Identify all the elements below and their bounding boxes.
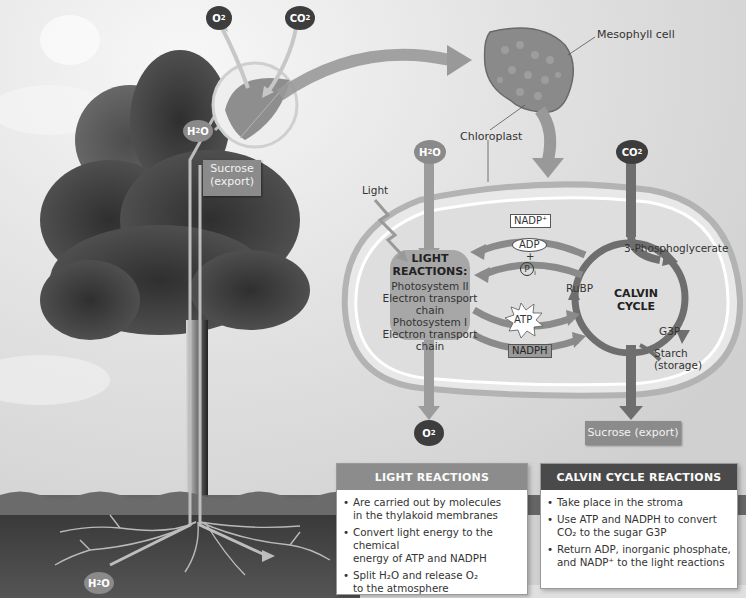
bullet: Convert light energy to the chemicalener… <box>353 526 527 565</box>
starch-line2: (storage) <box>654 359 702 371</box>
starch-storage-label: Starch (storage) <box>654 347 702 371</box>
light-label: Light <box>362 184 388 196</box>
light-reactions-components: Photosystem II Electron transport chain … <box>370 280 490 352</box>
co2-text: CO <box>622 147 638 158</box>
h2o-suffix: O <box>432 147 441 158</box>
h2o-suffix: O <box>101 578 110 589</box>
bullet-line: CO₂ to the sugar G3P <box>557 526 737 539</box>
phosphate-circle-icon: P <box>520 262 534 276</box>
bullet-line: Split H₂O and release O₂ <box>353 569 527 582</box>
bullet-line: in the thylakoid membranes <box>353 509 527 522</box>
chloroplast-label: Chloroplast <box>460 131 522 144</box>
component-etc-1: Electron transport chain <box>370 292 490 316</box>
h2o-text: H <box>187 126 195 137</box>
bullet-line: Take place in the stroma <box>557 496 737 509</box>
leaf-h2o-bubble: H2O <box>183 120 213 142</box>
co2-subscript: 2 <box>637 148 642 156</box>
bullet: Split H₂O and release O₂to the atmospher… <box>353 569 527 595</box>
chloroplast-sucrose-export-box: Sucrose (export) <box>585 421 681 445</box>
calvin-cycle-bullets: Take place in the stroma Use ATP and NAD… <box>541 496 737 569</box>
component-photosystem-i: Photosystem I <box>370 316 490 328</box>
g3p-label: G3P <box>659 325 680 337</box>
chloroplast-co2-bubble: CO2 <box>616 140 648 164</box>
bullet: Are carried out by moleculesin the thyla… <box>353 496 527 522</box>
adp-tag: ADP <box>512 238 547 252</box>
sucrose-line2: (export) <box>203 175 261 188</box>
nadph-tag: NADPH <box>508 344 552 358</box>
sucrose-line1: Sucrose <box>203 162 261 175</box>
component-photosystem-ii: Photosystem II <box>370 280 490 292</box>
phosphate-subscript: i <box>534 269 536 277</box>
bullet-line: Are carried out by molecules <box>353 496 527 509</box>
light-title-line1: LIGHT <box>392 252 468 265</box>
h2o-suffix: O <box>200 126 209 137</box>
bullet-line: Use ATP and NADPH to convert <box>557 513 737 526</box>
calvin-title-line2: CYCLE <box>606 300 666 313</box>
o2-subscript: 2 <box>221 14 226 22</box>
o2-subscript: 2 <box>431 429 436 437</box>
bullet-line: Return ADP, inorganic phosphate, <box>557 543 737 556</box>
chloroplast-h2o-bubble: H2O <box>414 140 446 164</box>
o2-text: O <box>422 428 431 439</box>
light-title-line2: REACTIONS: <box>392 265 468 278</box>
light-reactions-panel-title: LIGHT REACTIONS <box>337 464 527 490</box>
o2-release-bubble: O2 <box>206 6 232 30</box>
bullet: Use ATP and NADPH to convertCO₂ to the s… <box>557 513 737 539</box>
calvin-title-line1: CALVIN <box>606 287 666 300</box>
bullet-line: and NADP⁺ to the light reactions <box>557 556 737 569</box>
bullet-line: Convert light energy to the chemical <box>353 526 527 552</box>
co2-text: CO <box>290 13 306 24</box>
nadp-plus-tag: NADP⁺ <box>510 214 551 228</box>
co2-uptake-bubble: CO2 <box>285 6 315 30</box>
light-reactions-panel: LIGHT REACTIONS Are carried out by molec… <box>336 463 528 595</box>
bullet-line: to the atmosphere <box>353 582 527 595</box>
calvin-cycle-panel-title: CALVIN CYCLE REACTIONS <box>541 464 737 490</box>
3-phosphoglycerate-label: 3-Phosphoglycerate <box>624 242 728 254</box>
h2o-text: H <box>88 578 96 589</box>
bullet: Return ADP, inorganic phosphate,and NADP… <box>557 543 737 569</box>
light-reactions-bullets: Are carried out by moleculesin the thyla… <box>337 496 527 595</box>
bullet: Take place in the stroma <box>557 496 737 509</box>
component-etc-2: Electron transport chain <box>370 328 490 352</box>
root-h2o-bubble: H2O <box>84 572 114 594</box>
starch-line1: Starch <box>654 347 702 359</box>
h2o-text: H <box>419 147 427 158</box>
calvin-cycle-panel: CALVIN CYCLE REACTIONS Take place in the… <box>540 463 738 589</box>
co2-subscript: 2 <box>305 14 310 22</box>
photosynthesis-overview-figure: O2 CO2 H2O Sucrose (export) H2O Mesophyl… <box>0 0 746 598</box>
chloroplast-o2-output-bubble: O2 <box>414 420 444 446</box>
atp-label: ATP <box>514 314 532 326</box>
light-reactions-title: LIGHT REACTIONS: <box>392 252 468 278</box>
bullet-line: energy of ATP and NADPH <box>353 552 527 565</box>
o2-text: O <box>212 13 221 24</box>
rubp-label: RuBP <box>566 282 593 294</box>
plus-sign: + <box>526 251 534 263</box>
calvin-cycle-title: CALVIN CYCLE <box>606 287 666 313</box>
mesophyll-cell-label: Mesophyll cell <box>597 29 675 42</box>
inorganic-phosphate: Pi <box>520 262 536 277</box>
leaf-sucrose-export-box: Sucrose (export) <box>203 160 261 196</box>
